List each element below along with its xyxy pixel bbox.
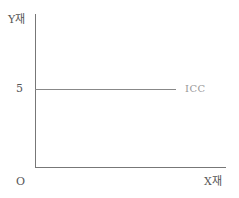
icc-curve-line — [35, 89, 176, 90]
y-axis-line — [35, 14, 36, 168]
y-axis-label: Y재 — [8, 14, 25, 26]
chart: Y재 5 O X재 ICC — [0, 0, 239, 198]
origin-label: O — [16, 176, 25, 188]
icc-curve-label: ICC — [185, 83, 206, 95]
x-axis-label: X재 — [204, 176, 222, 188]
y-tick-label-5: 5 — [16, 83, 23, 95]
x-axis-line — [35, 167, 226, 168]
